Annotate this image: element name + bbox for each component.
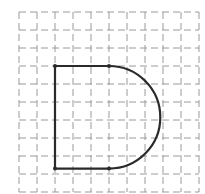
vertex-dot: [107, 64, 111, 68]
vertex-dot: [107, 167, 111, 171]
grid-lines: [19, 12, 199, 192]
shape-vertices: [53, 64, 111, 171]
vertex-dot: [53, 167, 57, 171]
grid-diagram: [0, 0, 205, 194]
vertex-dot: [53, 64, 57, 68]
